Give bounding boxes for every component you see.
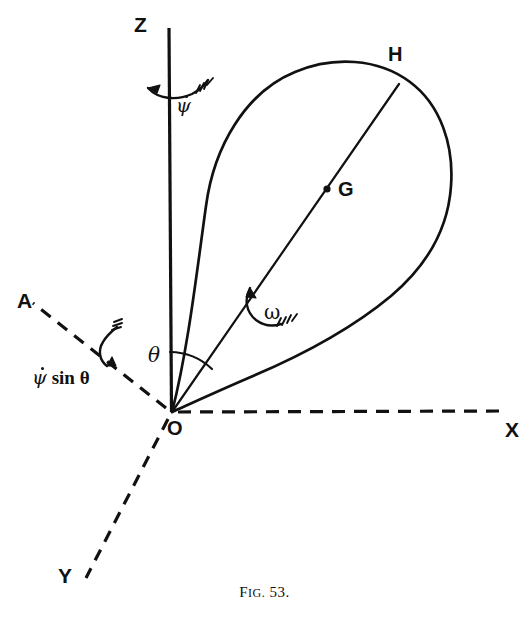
psi-dot-vector-label: ψ (176, 96, 191, 115)
omega-vector-label: ω (264, 302, 280, 322)
psi-dot-symbol: ψ (176, 96, 191, 115)
point-h-label: H (388, 44, 402, 64)
y-axis-line (86, 419, 168, 578)
a-axis-label: A (17, 290, 32, 311)
z-axis-line (169, 28, 172, 412)
caption-number: 53. (270, 584, 290, 600)
y-axis-label: Y (58, 565, 72, 586)
z-axis-label: Z (134, 14, 147, 35)
x-axis-line (178, 411, 506, 412)
sin-theta-text: sin θ (47, 367, 90, 388)
point-g-label: G (338, 179, 354, 199)
figure-canvas: Z X Y A O G H θ ω ψ ψ sin θ FIG. 53. (0, 0, 529, 619)
theta-arc (170, 352, 212, 369)
caption-prefix: F (239, 584, 248, 600)
caption-smallcaps: IG. (248, 586, 265, 600)
theta-angle-label: θ (148, 345, 160, 365)
x-axis-label: X (505, 419, 519, 440)
rigid-body-outline (172, 62, 451, 412)
psi-dot-sin-theta-label: ψ sin θ (32, 368, 90, 387)
psi-dot-sin-theta-arrow (100, 319, 122, 366)
figure-caption: FIG. 53. (0, 584, 529, 601)
point-g-dot (323, 185, 330, 192)
psi-dot-symbol-oa: ψ (32, 368, 47, 387)
point-o-label: O (167, 418, 183, 438)
